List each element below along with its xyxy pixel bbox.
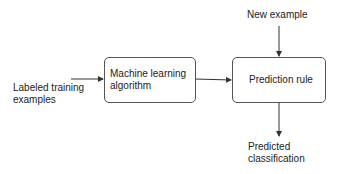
input-label-line2: examples xyxy=(13,94,84,106)
input-label-line1: Labeled training xyxy=(13,82,84,94)
new-example-label: New example xyxy=(247,9,308,21)
ml-algorithm-label: Machine learning algorithm xyxy=(110,68,186,92)
output-label-line2: classification xyxy=(248,153,305,165)
arrow-algorithm-to-rule xyxy=(195,79,231,80)
ml-algorithm-box: Machine learning algorithm xyxy=(104,57,196,103)
prediction-rule-label: Prediction rule xyxy=(249,74,313,86)
input-label: Labeled training examples xyxy=(13,82,84,106)
output-label: Predicted classification xyxy=(248,141,305,165)
output-label-line1: Predicted xyxy=(248,141,305,153)
ml-algorithm-line2: algorithm xyxy=(110,80,186,92)
ml-algorithm-line1: Machine learning xyxy=(110,68,186,80)
prediction-rule-box: Prediction rule xyxy=(232,57,326,103)
